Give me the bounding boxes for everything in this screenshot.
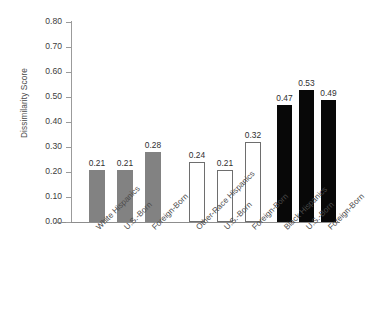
y-axis-tick-label: 0.60: [28, 67, 62, 76]
y-axis-tick-label: 0.50: [28, 92, 62, 101]
bar-value-label: 0.32: [239, 131, 267, 139]
bar-value-label: 0.53: [293, 79, 321, 87]
y-axis-tick-mark: [66, 122, 71, 123]
bar-value-label: 0.21: [211, 159, 239, 167]
y-axis-tick-labels: 0.800.700.600.500.400.300.200.100.00: [28, 0, 62, 313]
y-axis-tick-label: 0.20: [28, 167, 62, 176]
bar: [189, 162, 205, 222]
y-axis-tick-mark: [66, 197, 71, 198]
bar-value-label: 0.28: [139, 141, 167, 149]
y-axis-tick-label: 0.80: [28, 17, 62, 26]
y-axis-tick-mark: [66, 172, 71, 173]
y-axis-tick-mark: [66, 97, 71, 98]
y-axis-tick-mark: [66, 47, 71, 48]
bar-value-label: 0.21: [111, 159, 139, 167]
y-axis-tick-label: 0.10: [28, 192, 62, 201]
y-axis-tick-mark: [66, 147, 71, 148]
y-axis-tick-label: 0.70: [28, 42, 62, 51]
bar-value-label: 0.47: [271, 94, 299, 102]
bar-value-label: 0.24: [183, 151, 211, 159]
y-axis-tick-label: 0.30: [28, 142, 62, 151]
y-axis-tick-mark: [66, 22, 71, 23]
bar: [89, 170, 105, 223]
y-axis-tick-mark: [66, 222, 71, 223]
y-axis-tick-label: 0.40: [28, 117, 62, 126]
bar-value-label: 0.49: [315, 89, 343, 97]
y-axis-tick-mark: [66, 72, 71, 73]
bar-value-label: 0.21: [83, 159, 111, 167]
